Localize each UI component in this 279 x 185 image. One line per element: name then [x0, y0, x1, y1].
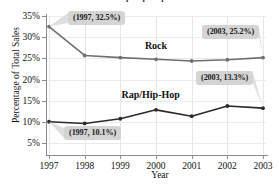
music-sales-line-chart: Sales of Rock and Rap/Hip-Hop Music in t… [0, 0, 279, 185]
data-point-marker [261, 106, 265, 110]
x-tick-mark [85, 155, 86, 159]
y-axis-title: Percentage of Total Sales [11, 5, 21, 145]
y-tick-label: 15% [23, 96, 40, 106]
y-tick-label: 25% [23, 53, 40, 63]
annotation-callout: (1997, 32.5%) [68, 11, 125, 25]
data-point-marker [83, 54, 87, 58]
y-tick-label: 5% [27, 138, 40, 148]
chart-title: Sales of Rock and Rap/Hip-Hop Music in t… [0, 0, 279, 2]
data-point-marker [154, 108, 158, 112]
y-tick-label: 20% [23, 75, 40, 85]
x-axis-line [46, 155, 268, 156]
data-point-marker [225, 58, 229, 62]
x-axis-title: Year [44, 170, 276, 180]
x-tick-mark [227, 155, 228, 159]
x-tick-mark [49, 155, 50, 159]
series-label-rap-hip-hop: Rap/Hip-Hop [121, 89, 179, 100]
data-point-marker [154, 57, 158, 61]
data-point-marker [118, 117, 122, 121]
y-tick-label: 30% [23, 32, 40, 42]
y-tick-label: 10% [23, 117, 40, 127]
data-point-marker [261, 56, 265, 60]
x-tick-mark [263, 155, 264, 159]
data-point-marker [190, 114, 194, 118]
annotation-callout: (1997, 10.1%) [64, 126, 121, 140]
annotation-callout: (2003, 25.2%) [202, 25, 259, 39]
data-point-marker [47, 25, 51, 29]
data-point-marker [83, 122, 87, 126]
data-point-marker [190, 59, 194, 63]
data-point-marker [225, 104, 229, 108]
x-tick-mark [120, 155, 121, 159]
data-point-marker [47, 120, 51, 124]
series-label-rock: Rock [145, 40, 167, 51]
annotation-callout: (2003, 13.3%) [196, 71, 253, 85]
y-tick-label: 35% [23, 11, 40, 21]
data-point-marker [118, 56, 122, 60]
x-tick-mark [192, 155, 193, 159]
x-tick-mark [156, 155, 157, 159]
